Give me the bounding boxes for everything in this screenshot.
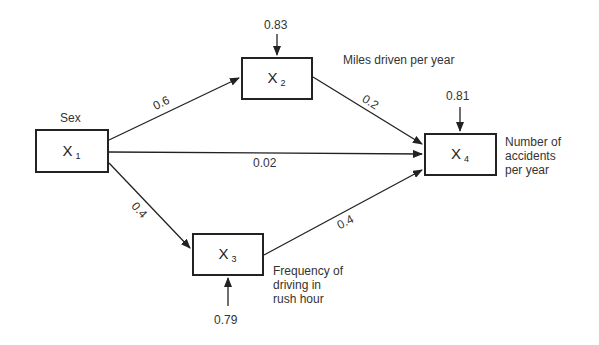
node-x2-symbol: X <box>267 69 278 86</box>
node-x3-symbol: X <box>218 245 229 262</box>
label-sex: Sex <box>60 111 81 125</box>
edge-x1-x3 <box>109 163 190 248</box>
node-x3-subscript: 3 <box>232 254 238 264</box>
edge-x1-x4 <box>109 152 422 154</box>
node-x2-subscript: 2 <box>281 78 287 88</box>
label-miles-driven: Miles driven per year <box>343 53 454 67</box>
edge-x2-x4 <box>313 77 422 144</box>
label-line: accidents <box>505 149 561 163</box>
node-x1-symbol: X <box>62 142 73 159</box>
label-frequency-rush-hour: Frequency of driving in rush hour <box>273 264 343 306</box>
node-x4: X4 <box>424 133 497 176</box>
node-x2: X2 <box>241 57 313 100</box>
node-x4-symbol: X <box>451 145 462 162</box>
node-x3: X3 <box>192 233 264 276</box>
label-line: rush hour <box>273 292 343 306</box>
label-number-of-accidents: Number of accidents per year <box>505 135 561 177</box>
residual-x3: 0.79 <box>214 313 237 327</box>
label-line: Frequency of <box>273 264 343 278</box>
label-line: per year <box>505 163 561 177</box>
node-x1: X1 <box>35 129 109 173</box>
node-x4-subscript: 4 <box>464 154 470 164</box>
residual-x2: 0.83 <box>264 18 287 32</box>
edge-x1-x2 <box>109 78 239 140</box>
residual-x4: 0.81 <box>446 89 469 103</box>
node-x1-subscript: 1 <box>76 151 82 161</box>
edge-x3-x4 <box>264 170 422 255</box>
coef-x1-x4: 0.02 <box>253 156 276 170</box>
label-line: driving in <box>273 278 343 292</box>
label-line: Number of <box>505 135 561 149</box>
